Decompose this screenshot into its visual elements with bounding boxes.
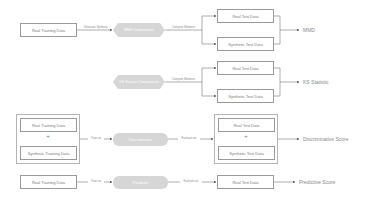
- row2-target-real: Real Test Data: [217, 61, 274, 75]
- row3-input-synthetic: Synthetic Training Data: [20, 146, 77, 160]
- row4-process-label: Predictor: [132, 180, 148, 185]
- row2-process-label: KS Statistic Computation: [119, 80, 159, 84]
- row3-edge-label-2: Evaluate on: [178, 137, 200, 140]
- row1-process-label: MMD Computation: [124, 28, 154, 32]
- row3-input-real: Real Training Data: [20, 118, 77, 132]
- row3-target-real: Real Test Data: [218, 118, 275, 132]
- row4-target-real: Real Test Data: [217, 175, 274, 189]
- row2-target-synthetic-label: Synthetic Test Data: [228, 94, 262, 99]
- row1-input-box: Real Training Data: [20, 23, 77, 37]
- row1-input-label: Real Training Data: [32, 28, 65, 33]
- row2-output: KS Statistic: [303, 79, 329, 85]
- row2-edge-label-2: Compute Between: [172, 78, 194, 81]
- row3-process-pill: Discriminator: [113, 133, 168, 146]
- row3-process-label: Discriminator: [129, 137, 152, 142]
- row3-output: Discriminative Score: [303, 136, 349, 142]
- row4-edge-label: Train on: [88, 180, 104, 183]
- row1-target-synthetic: Synthetic Test Data: [217, 37, 274, 51]
- row1-target-real: Real Test Data: [217, 9, 274, 23]
- row3-input-plus: +: [43, 133, 53, 139]
- row3-edge-label: Train on: [88, 137, 104, 140]
- row1-output: MMD: [303, 27, 315, 33]
- row4-input-box: Real Training Data: [20, 175, 77, 189]
- row3-target-real-label: Real Test Data: [233, 123, 259, 128]
- row3-target-synthetic: Synthetic Test Data: [218, 146, 275, 160]
- row4-edge-label-2: Evaluate on: [180, 180, 202, 183]
- row2-target-real-label: Real Test Data: [232, 66, 258, 71]
- row4-input-label: Real Training Data: [32, 180, 65, 185]
- row1-process-hexagon: MMD Computation: [113, 23, 165, 37]
- row3-input-real-label: Real Training Data: [32, 123, 65, 128]
- row1-edge-label-2: Compute Between: [172, 26, 194, 29]
- row1-edge-label: Generate Synthetic: [84, 26, 106, 29]
- row3-input-synthetic-label: Synthetic Training Data: [28, 151, 69, 156]
- row2-target-synthetic: Synthetic Test Data: [217, 89, 274, 103]
- row2-process-hexagon: KS Statistic Computation: [113, 75, 165, 89]
- row1-target-real-label: Real Test Data: [232, 14, 258, 19]
- row3-target-synthetic-label: Synthetic Test Data: [229, 151, 263, 156]
- row4-process-pill: Predictor: [113, 176, 168, 189]
- row4-target-real-label: Real Test Data: [232, 180, 258, 185]
- row3-target-plus: +: [241, 133, 251, 139]
- row1-target-synthetic-label: Synthetic Test Data: [228, 42, 262, 47]
- row4-output: Predictive Score: [299, 179, 335, 185]
